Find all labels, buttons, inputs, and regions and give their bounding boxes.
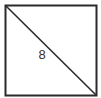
square-diagram: 8 [0, 0, 101, 98]
diagonal-length-label: 8 [38, 47, 45, 62]
